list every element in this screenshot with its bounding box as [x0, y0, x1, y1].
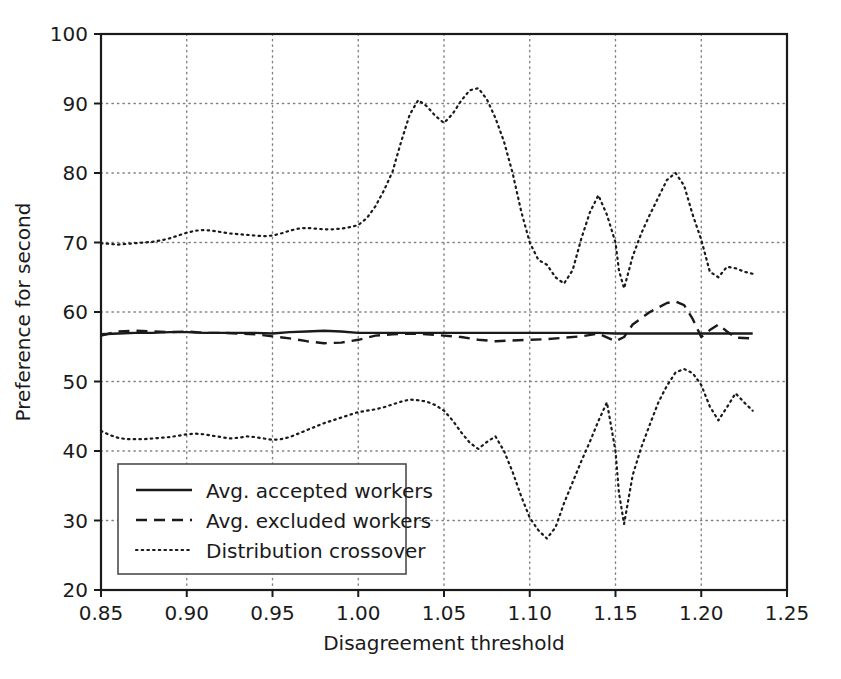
x-tick-label: 1.05	[422, 601, 467, 625]
x-tick-label: 1.10	[507, 601, 552, 625]
x-tick-label: 0.85	[79, 601, 124, 625]
y-tick-label: 40	[63, 439, 88, 463]
legend[interactable]: Avg. accepted workersAvg. excluded worke…	[118, 464, 433, 574]
y-tick-label: 50	[63, 370, 88, 394]
y-tick-label: 30	[63, 509, 88, 533]
y-tick-label: 80	[63, 161, 88, 185]
x-tick-label: 1.25	[765, 601, 810, 625]
y-tick-label: 100	[50, 22, 88, 46]
y-axis-title: Preference for second	[11, 203, 35, 422]
x-axis-title: Disagreement threshold	[323, 631, 565, 655]
legend-label[interactable]: Distribution crossover	[206, 539, 426, 563]
chart-canvas: 0.850.900.951.001.051.101.151.201.252030…	[0, 0, 841, 679]
y-tick-label: 20	[63, 578, 88, 602]
x-tick-label: 0.90	[164, 601, 209, 625]
legend-label[interactable]: Avg. excluded workers	[206, 509, 431, 533]
x-tick-label: 1.15	[593, 601, 638, 625]
x-tick-label: 1.20	[679, 601, 724, 625]
y-tick-label: 70	[63, 231, 88, 255]
y-tick-label: 60	[63, 300, 88, 324]
chart-figure: 0.850.900.951.001.051.101.151.201.252030…	[0, 0, 841, 679]
y-tick-label: 90	[63, 92, 88, 116]
legend-label[interactable]: Avg. accepted workers	[206, 479, 433, 503]
x-tick-label: 1.00	[336, 601, 381, 625]
x-tick-label: 0.95	[250, 601, 295, 625]
